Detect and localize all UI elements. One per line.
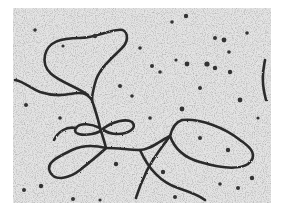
micrograph-svg — [13, 8, 271, 203]
micrograph — [13, 8, 271, 203]
